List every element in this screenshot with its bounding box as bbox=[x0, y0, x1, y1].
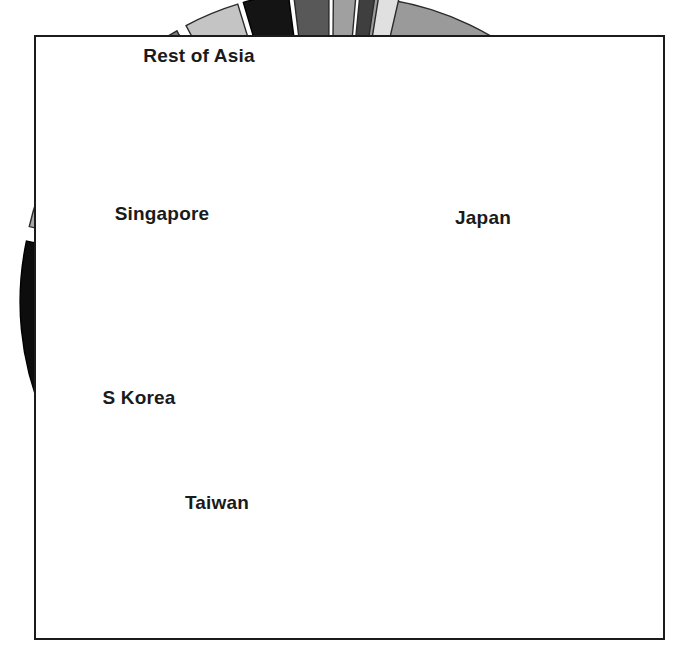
chart-border-frame bbox=[34, 35, 665, 640]
pie-chart-figure: JapanChinaTaiwanS KoreaHong KongSingapor… bbox=[0, 0, 695, 671]
